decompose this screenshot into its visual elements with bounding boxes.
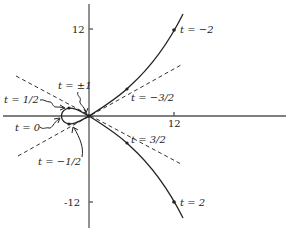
- point-t-pm1: [87, 114, 91, 118]
- leader-t-1-2: [40, 100, 64, 108]
- x-tick-label-12: 12: [168, 118, 181, 129]
- point-t-1-2: [67, 106, 70, 109]
- label-t-pm1: t = ±1: [58, 80, 92, 91]
- leader-t-neg1-2: [74, 128, 83, 157]
- label-t-2: t = 2: [180, 197, 205, 208]
- parametric-curve-diagram: 12 -12 12 t = −2 t = −3/2 t = ±1 t = 1/2…: [0, 0, 289, 236]
- point-t-2: [172, 200, 176, 204]
- y-tick-label-12: 12: [72, 24, 85, 35]
- point-t-3-2: [125, 141, 128, 144]
- point-t-neg1-2: [67, 122, 70, 125]
- label-t-0: t = 0: [15, 122, 41, 133]
- label-t-neg1-2: t = −1/2: [38, 156, 81, 167]
- label-t-3-2: t = 3/2: [131, 134, 166, 145]
- asymptote-descending: [16, 76, 181, 164]
- leader-t-0: [40, 119, 59, 128]
- label-t-neg2: t = −2: [180, 24, 214, 35]
- point-t-neg3-2: [125, 87, 128, 90]
- y-tick-label-neg12: -12: [64, 197, 80, 208]
- label-t-1-2: t = 1/2: [4, 94, 39, 105]
- curve-lower-branch: [89, 116, 183, 218]
- point-t-neg2: [172, 28, 176, 32]
- label-t-neg3-2: t = −3/2: [131, 92, 174, 103]
